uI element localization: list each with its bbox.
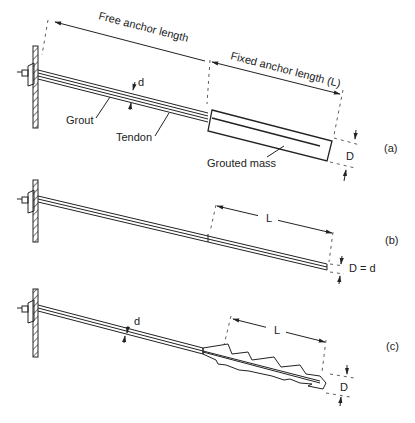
anchor-head <box>17 190 34 213</box>
panel-tag-b: (b) <box>385 234 398 246</box>
grout-label: Grout <box>66 114 94 126</box>
tendon-free-length <box>38 70 208 122</box>
grouted-mass-label: Grouted mass <box>207 157 277 169</box>
free-anchor-length-label: Free anchor length <box>97 9 189 44</box>
grouted-mass-body <box>208 110 332 161</box>
D-label-a: D <box>346 150 354 162</box>
panel-tag-a: (a) <box>384 142 397 154</box>
tendon-label: Tendon <box>116 131 152 143</box>
panel-b: L D = d (b) <box>17 180 398 284</box>
ground-anchor-diagram: Free anchor length Fixed anchor length (… <box>0 0 415 423</box>
fixed-anchor-length-label: Fixed anchor length (L) <box>229 49 342 89</box>
tendon-free-c <box>38 305 203 354</box>
anchor-head <box>17 63 34 86</box>
D-label-c: D <box>340 381 348 393</box>
d-label-c: d <box>134 315 140 327</box>
anchor-head <box>17 300 34 323</box>
d-label-a: d <box>138 76 144 88</box>
L-label-c: L <box>274 324 280 336</box>
tendon-b <box>38 196 327 270</box>
retaining-wall <box>33 46 38 128</box>
panel-tag-c: (c) <box>386 340 399 352</box>
retaining-wall <box>33 289 38 357</box>
D-equals-d-label: D = d <box>349 262 376 274</box>
L-label-b: L <box>266 212 272 224</box>
panel-c: d L D (c) <box>17 289 399 406</box>
panel-a: Free anchor length Fixed anchor length (… <box>17 9 397 181</box>
